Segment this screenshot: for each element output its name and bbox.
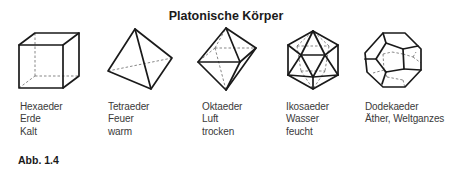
caption-dodekaeder: Dodekaeder Äther, Weltganzes [365, 101, 444, 126]
solid-element: Luft [202, 113, 242, 125]
cube-icon [17, 30, 83, 92]
solid-quality: trocken [202, 126, 242, 138]
icosahedron-icon [285, 29, 341, 91]
solid-name: Oktaeder [202, 101, 242, 113]
solid-name: Tetraeder [108, 101, 149, 113]
solid-element: Feuer [108, 113, 149, 125]
caption-oktaeder: Oktaeder Luft trocken [202, 101, 242, 138]
solid-element: Erde [20, 113, 63, 125]
solid-element: Äther, Weltganzes [365, 113, 444, 125]
solid-name: Dodekaeder [365, 101, 444, 113]
figure-label: Abb. 1.4 [18, 154, 59, 166]
caption-hexaeder: Hexaeder Erde Kalt [20, 101, 63, 138]
dodecahedron-icon [363, 30, 425, 90]
figure-title: Platonische Körper [0, 9, 452, 23]
caption-tetraeder: Tetraeder Feuer warm [108, 101, 149, 138]
solid-quality: Kalt [20, 126, 63, 138]
solid-name: Ikosaeder [286, 101, 329, 113]
caption-ikosaeder: Ikosaeder Wasser feucht [286, 101, 329, 138]
solid-quality: warm [108, 126, 149, 138]
solid-quality: feucht [286, 126, 329, 138]
tetrahedron-icon [106, 27, 174, 91]
octahedron-icon [196, 26, 260, 92]
solid-name: Hexaeder [20, 101, 63, 113]
solid-element: Wasser [286, 113, 329, 125]
